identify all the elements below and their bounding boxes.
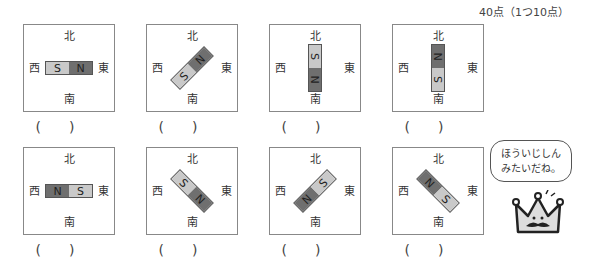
answer-blank-4[interactable]: () bbox=[392, 119, 484, 135]
bar-magnet: SN bbox=[170, 169, 214, 213]
paren-open: ( bbox=[159, 119, 192, 135]
direction-east: 東 bbox=[467, 186, 478, 197]
pole-S: S bbox=[69, 185, 92, 197]
answer-blank-2[interactable]: () bbox=[146, 119, 238, 135]
direction-north: 北 bbox=[187, 154, 198, 165]
pole-N: N bbox=[432, 45, 444, 68]
paren-close: ) bbox=[192, 242, 225, 258]
direction-south: 南 bbox=[187, 94, 198, 105]
direction-west: 西 bbox=[275, 63, 286, 74]
compass-card-1: 北南西東SN bbox=[23, 24, 115, 112]
speech-bubble: ほういじしん みたいだね。 bbox=[490, 140, 572, 182]
bar-magnet: NS bbox=[45, 184, 93, 198]
direction-north: 北 bbox=[310, 154, 321, 165]
bar-magnet: NS bbox=[416, 169, 460, 213]
direction-south: 南 bbox=[433, 94, 444, 105]
answer-blank-7[interactable]: () bbox=[269, 242, 361, 258]
direction-east: 東 bbox=[221, 63, 232, 74]
paren-open: ( bbox=[36, 242, 69, 258]
direction-north: 北 bbox=[187, 31, 198, 42]
direction-west: 西 bbox=[398, 63, 409, 74]
paren-open: ( bbox=[282, 242, 315, 258]
compass-card-3: 北南西東SN bbox=[269, 24, 361, 112]
direction-east: 東 bbox=[98, 63, 109, 74]
paren-close: ) bbox=[315, 242, 348, 258]
speech-line-1: ほういじしん bbox=[491, 146, 571, 161]
answer-blank-3[interactable]: () bbox=[269, 119, 361, 135]
bar-magnet: SN bbox=[308, 44, 322, 92]
paren-close: ) bbox=[438, 119, 471, 135]
bar-magnet: SN bbox=[45, 61, 93, 75]
direction-east: 東 bbox=[98, 186, 109, 197]
paren-open: ( bbox=[405, 119, 438, 135]
direction-west: 西 bbox=[398, 186, 409, 197]
compass-card-2: 北南西東SN bbox=[146, 24, 238, 112]
direction-north: 北 bbox=[433, 154, 444, 165]
direction-west: 西 bbox=[275, 186, 286, 197]
direction-south: 南 bbox=[310, 217, 321, 228]
paren-close: ) bbox=[69, 119, 102, 135]
direction-south: 南 bbox=[310, 94, 321, 105]
pole-S: S bbox=[432, 68, 444, 91]
paren-open: ( bbox=[405, 242, 438, 258]
direction-east: 東 bbox=[344, 186, 355, 197]
speech-line-2: みたいだね。 bbox=[491, 161, 571, 176]
direction-east: 東 bbox=[344, 63, 355, 74]
answer-blank-5[interactable]: () bbox=[23, 242, 115, 258]
direction-north: 北 bbox=[64, 31, 75, 42]
direction-west: 西 bbox=[152, 63, 163, 74]
direction-south: 南 bbox=[64, 217, 75, 228]
pole-S: S bbox=[434, 187, 459, 212]
direction-east: 東 bbox=[221, 186, 232, 197]
direction-south: 南 bbox=[64, 94, 75, 105]
direction-west: 西 bbox=[29, 186, 40, 197]
paren-close: ) bbox=[438, 242, 471, 258]
bar-magnet: NS bbox=[293, 169, 337, 213]
compass-card-5: 北南西東NS bbox=[23, 147, 115, 235]
direction-east: 東 bbox=[467, 63, 478, 74]
pole-N: N bbox=[46, 185, 69, 197]
direction-west: 西 bbox=[29, 63, 40, 74]
answer-blank-6[interactable]: () bbox=[146, 242, 238, 258]
direction-south: 南 bbox=[187, 217, 198, 228]
bar-magnet: SN bbox=[170, 46, 214, 90]
answer-blank-1[interactable]: () bbox=[23, 119, 115, 135]
direction-west: 西 bbox=[152, 186, 163, 197]
pole-N: N bbox=[69, 62, 92, 74]
paren-close: ) bbox=[192, 119, 225, 135]
compass-card-7: 北南西東NS bbox=[269, 147, 361, 235]
paren-open: ( bbox=[282, 119, 315, 135]
paren-open: ( bbox=[159, 242, 192, 258]
direction-south: 南 bbox=[433, 217, 444, 228]
pole-N: N bbox=[309, 68, 321, 91]
bar-magnet: SN bbox=[431, 44, 445, 92]
paren-close: ) bbox=[69, 242, 102, 258]
crown-mascot-icon bbox=[508, 190, 568, 240]
compass-card-8: 北南西東NS bbox=[392, 147, 484, 235]
pole-N: N bbox=[188, 187, 213, 212]
direction-north: 北 bbox=[433, 31, 444, 42]
paren-close: ) bbox=[315, 119, 348, 135]
direction-north: 北 bbox=[64, 154, 75, 165]
compass-card-4: 北南西東SN bbox=[392, 24, 484, 112]
compass-card-6: 北南西東SN bbox=[146, 147, 238, 235]
direction-north: 北 bbox=[310, 31, 321, 42]
answer-blank-8[interactable]: () bbox=[392, 242, 484, 258]
paren-open: ( bbox=[36, 119, 69, 135]
score-label: 40点（1つ10点） bbox=[479, 3, 569, 19]
pole-S: S bbox=[309, 45, 321, 68]
pole-S: S bbox=[46, 62, 69, 74]
